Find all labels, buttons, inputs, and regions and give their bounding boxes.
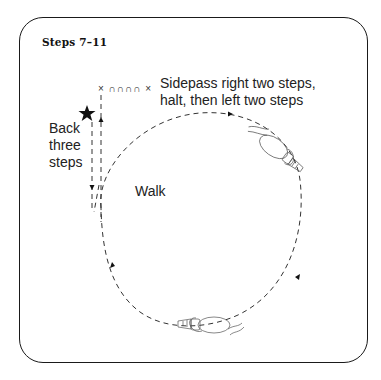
walk-circle-path <box>101 113 302 326</box>
horse-icon <box>178 317 244 335</box>
arrow-icons <box>90 112 301 281</box>
arrow-right-icon <box>228 112 233 117</box>
arrow-up-left-icon <box>110 262 115 268</box>
pattern-diagram <box>0 0 381 380</box>
horse-icon <box>242 119 310 175</box>
arrow-down-left-icon <box>295 274 300 280</box>
back-path <box>92 95 101 222</box>
arrow-up-icon <box>99 117 104 122</box>
star-icon <box>79 105 96 121</box>
arrow-down-icon <box>90 185 95 190</box>
